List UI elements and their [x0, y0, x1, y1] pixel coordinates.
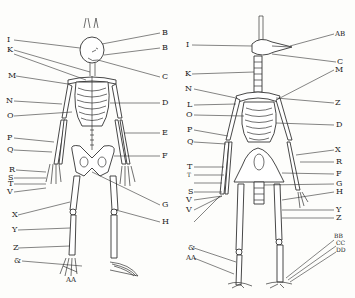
bird-label-X: X — [335, 146, 341, 154]
human-label-X: X — [12, 211, 18, 219]
bird-label-K: K — [185, 70, 191, 78]
bird-label-R: R — [336, 158, 342, 166]
human-label-Z: Z — [13, 244, 19, 252]
bird-label-T1: T — [187, 163, 192, 171]
bird-label-Q: Q — [187, 138, 194, 146]
human-label-I: I — [7, 36, 10, 44]
bird-label-V1: V — [186, 196, 192, 204]
human-label-V: V — [7, 188, 13, 196]
bird-label-L: L — [187, 101, 192, 109]
skeleton-drawings — [0, 0, 355, 298]
human-label-B2: B — [162, 44, 168, 52]
bird-label-AB: AB — [335, 30, 345, 38]
bird-label-I: I — [186, 41, 189, 49]
bird-label-ampersand: & — [188, 244, 195, 252]
human-label-M: M — [8, 72, 16, 80]
skeleton-comparison-figure: I K M N O P Q R S T V X Y Z & B B C D E … — [0, 0, 355, 298]
bird-label-H: H — [336, 188, 343, 196]
human-skeleton-drawing — [46, 18, 138, 276]
human-label-P: P — [7, 134, 12, 142]
human-label-AA: AA — [66, 276, 76, 284]
human-label-E: E — [162, 129, 168, 137]
bird-label-V2: V — [186, 206, 192, 214]
human-label-N: N — [6, 97, 13, 105]
bird-label-D: D — [336, 121, 342, 129]
bird-label-N: N — [185, 85, 192, 93]
bird-label-M: M — [335, 66, 343, 74]
human-label-F: F — [162, 152, 168, 160]
bird-label-AA: AA — [186, 254, 196, 262]
human-label-B: B — [162, 29, 168, 37]
human-label-G: G — [162, 201, 168, 209]
bird-label-T2: T — [187, 171, 191, 179]
human-label-Q: Q — [7, 146, 14, 154]
human-label-C: C — [162, 73, 168, 81]
human-label-H: H — [162, 218, 169, 226]
bird-label-Z2: Z — [336, 214, 342, 222]
bird-label-Z1: Z — [335, 99, 341, 107]
bird-label-DD: DD — [336, 246, 346, 254]
human-label-Y: Y — [12, 226, 17, 234]
human-label-K: K — [7, 46, 13, 54]
human-label-ampersand: & — [14, 257, 21, 265]
human-label-D: D — [162, 99, 168, 107]
bird-label-F: F — [336, 170, 342, 178]
bird-label-P: P — [187, 126, 192, 134]
bird-label-O: O — [186, 111, 193, 119]
human-label-O: O — [7, 112, 14, 120]
